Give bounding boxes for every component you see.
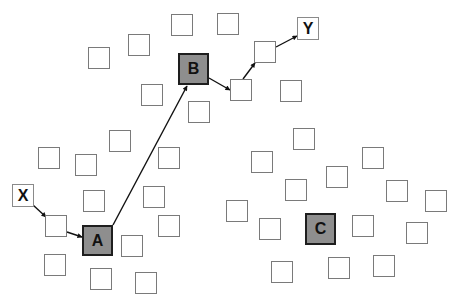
node-box xyxy=(425,190,447,212)
node-box xyxy=(326,166,348,188)
node-box xyxy=(352,215,374,237)
node-c-hub: C xyxy=(305,213,336,245)
node-x-endpoint: X xyxy=(12,184,34,207)
node-box xyxy=(293,128,315,150)
network-diagram: X Y A B C xyxy=(0,0,460,306)
node-box xyxy=(226,200,248,222)
node-box xyxy=(254,41,276,63)
node-box xyxy=(230,79,252,101)
node-b-hub: B xyxy=(178,53,209,85)
arrow-edge xyxy=(209,78,230,90)
node-b-label: B xyxy=(188,60,200,78)
node-box xyxy=(285,179,307,201)
node-box xyxy=(38,147,60,169)
node-box xyxy=(280,80,302,102)
node-box xyxy=(75,154,97,176)
node-box xyxy=(158,147,180,169)
arrow-edge xyxy=(67,232,82,237)
node-box xyxy=(44,254,66,276)
node-x-label: X xyxy=(18,187,29,205)
node-box xyxy=(83,190,105,212)
node-box xyxy=(143,186,165,208)
node-box xyxy=(121,235,143,257)
node-box xyxy=(88,47,110,69)
node-box xyxy=(128,34,150,56)
node-box xyxy=(386,180,408,202)
node-box xyxy=(328,257,350,279)
node-a-hub: A xyxy=(82,225,113,256)
node-box xyxy=(406,222,428,244)
node-box xyxy=(90,268,112,290)
node-box xyxy=(171,14,193,36)
node-box xyxy=(373,255,395,277)
node-box xyxy=(188,101,210,123)
arrow-edge xyxy=(243,63,255,79)
node-box xyxy=(259,218,281,240)
arrow-edge xyxy=(276,36,297,47)
node-box xyxy=(135,272,157,294)
node-y-endpoint: Y xyxy=(297,17,319,40)
node-box xyxy=(141,84,163,106)
node-box xyxy=(362,147,384,169)
node-box xyxy=(217,13,239,35)
node-a-label: A xyxy=(92,232,104,250)
node-y-label: Y xyxy=(303,20,314,38)
node-c-label: C xyxy=(315,220,327,238)
node-box xyxy=(109,130,131,152)
node-box xyxy=(45,215,67,237)
node-box xyxy=(271,261,293,283)
node-box xyxy=(158,215,180,237)
node-box xyxy=(251,151,273,173)
